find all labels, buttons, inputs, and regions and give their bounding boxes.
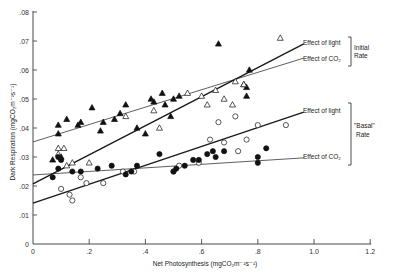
- fit-line: [33, 112, 304, 203]
- filled-circle-marker: [50, 175, 55, 180]
- y-tick-label: .01: [19, 212, 29, 219]
- open-circle-marker: [216, 120, 221, 125]
- filled-triangle-marker: [142, 131, 148, 136]
- filled-circle-marker: [123, 172, 128, 177]
- open-circle-marker: [221, 140, 226, 145]
- filled-triangle-marker: [123, 102, 129, 107]
- filled-circle-marker: [205, 152, 210, 157]
- y-tick-label: .07: [19, 38, 29, 45]
- annotation-initial-rate: Effect of light Effect of CO₂ Initial Ra…: [303, 37, 370, 66]
- filled-circle-marker: [129, 169, 134, 174]
- open-triangle-marker: [185, 90, 191, 95]
- x-tick-label: .8: [255, 248, 261, 255]
- y-tick-label: .08: [19, 9, 29, 16]
- filled-circle-marker: [255, 154, 260, 159]
- filled-circle-marker: [70, 169, 75, 174]
- open-circle-marker: [283, 123, 288, 128]
- group-initial-1: Initial: [354, 44, 370, 51]
- scatter-chart: 0.01.02.03.04.05.06.07.080.2.4.6.81.01.2…: [0, 0, 399, 277]
- filled-circle-marker: [210, 149, 215, 154]
- filled-triangle-marker: [176, 93, 182, 98]
- filled-triangle-marker: [64, 116, 70, 121]
- bracket-initial: [348, 37, 351, 66]
- open-triangle-marker: [230, 102, 236, 107]
- filled-triangle-marker: [97, 128, 103, 133]
- filled-circle-marker: [56, 154, 61, 159]
- fit-line: [33, 58, 304, 142]
- open-triangle-marker: [241, 81, 247, 86]
- filled-circle-marker: [134, 163, 139, 168]
- open-circle-marker: [84, 181, 89, 186]
- filled-circle-marker: [95, 166, 100, 171]
- filled-triangle-marker: [55, 122, 61, 127]
- x-axis-title: Net Photosynthesis (mgCO₂m⁻²s⁻¹): [153, 260, 257, 268]
- open-triangle-marker: [151, 107, 157, 112]
- filled-circle-marker: [109, 163, 114, 168]
- x-tick-label: 0: [31, 248, 35, 255]
- group-initial-2: Rate: [354, 52, 368, 59]
- fit-lines: [33, 44, 304, 203]
- open-circle-marker: [59, 186, 64, 191]
- label-initial-light: Effect of light: [303, 39, 341, 47]
- filled-triangle-marker: [89, 105, 95, 110]
- label-basal-co2: Effect of CO₂: [303, 153, 341, 160]
- y-tick-label: .02: [19, 183, 29, 190]
- y-tick-label: .04: [19, 125, 29, 132]
- open-triangle-marker: [221, 96, 227, 101]
- data-points: [50, 35, 289, 203]
- open-circle-marker: [244, 137, 249, 142]
- filled-circle-marker: [78, 169, 83, 174]
- y-axis-title: Dark Respiration (mgCO₂m⁻²s⁻¹): [9, 84, 17, 181]
- filled-circle-marker: [221, 149, 226, 154]
- x-tick-label: .2: [86, 248, 92, 255]
- y-tick-label: .06: [19, 67, 29, 74]
- open-circle-marker: [207, 137, 212, 142]
- filled-circle-marker: [157, 152, 162, 157]
- filled-circle-marker: [213, 154, 218, 159]
- open-circle-marker: [78, 175, 83, 180]
- filled-triangle-marker: [111, 116, 117, 121]
- filled-triangle-marker: [244, 93, 250, 98]
- open-triangle-marker: [204, 102, 210, 107]
- filled-triangle-marker: [162, 102, 168, 107]
- open-triangle-marker: [61, 145, 67, 150]
- filled-triangle-marker: [246, 67, 252, 72]
- y-tick-label: .03: [19, 154, 29, 161]
- filled-triangle-marker: [171, 96, 177, 101]
- group-basal-2: Rate: [356, 131, 370, 138]
- filled-circle-marker: [174, 166, 179, 171]
- filled-circle-marker: [182, 163, 187, 168]
- filled-circle-marker: [255, 160, 260, 165]
- open-circle-marker: [67, 192, 72, 197]
- filled-circle-marker: [56, 166, 61, 171]
- filled-circle-marker: [196, 157, 201, 162]
- filled-circle-marker: [191, 157, 196, 162]
- open-triangle-marker: [277, 35, 283, 40]
- open-triangle-marker: [86, 160, 92, 165]
- y-tick-label: 0: [25, 241, 29, 248]
- filled-triangle-marker: [215, 41, 221, 46]
- x-tick-label: 1.0: [309, 248, 319, 255]
- filled-triangle-marker: [134, 125, 140, 130]
- annotation-basal-rate: Effect of light Effect of CO₂ "Basal" Ra…: [303, 103, 376, 165]
- x-tick-label: .6: [199, 248, 205, 255]
- label-initial-co2: Effect of CO₂: [303, 55, 341, 62]
- open-circle-marker: [236, 149, 241, 154]
- filled-triangle-marker: [117, 110, 123, 115]
- open-circle-marker: [70, 198, 75, 203]
- open-triangle-marker: [156, 125, 162, 130]
- filled-triangle-marker: [50, 157, 56, 162]
- x-tick-label: 1.2: [365, 248, 375, 255]
- open-triangle-marker: [55, 145, 61, 150]
- open-circle-marker: [255, 123, 260, 128]
- group-basal-1: "Basal": [354, 122, 376, 129]
- open-circle-marker: [233, 114, 238, 119]
- label-basal-light: Effect of light: [303, 107, 341, 115]
- y-tick-label: .05: [19, 96, 29, 103]
- filled-circle-marker: [264, 146, 269, 151]
- filled-triangle-marker: [159, 90, 165, 95]
- filled-triangle-marker: [78, 119, 84, 124]
- x-tick-label: .4: [142, 248, 148, 255]
- bracket-basal: [348, 103, 351, 165]
- open-circle-marker: [101, 181, 106, 186]
